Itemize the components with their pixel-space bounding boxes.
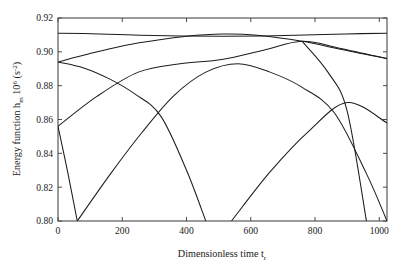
x-tick-label: 600 [244, 225, 259, 236]
curve-line [58, 62, 206, 221]
y-tick-label: 0.84 [36, 148, 53, 159]
x-tick-label: 800 [308, 225, 323, 236]
figure-container: 02004006008001000 0.800.820.840.860.880.… [0, 0, 409, 268]
curve-line [302, 41, 366, 221]
x-axis-title: Dimensionless time tr [178, 248, 267, 262]
y-tick-label: 0.82 [36, 182, 53, 193]
curve-line [58, 126, 77, 221]
y-tick-label: 0.86 [36, 114, 53, 125]
curve-line [58, 41, 387, 126]
line-chart: 02004006008001000 0.800.820.840.860.880.… [0, 0, 409, 268]
y-tick-label: 0.80 [36, 215, 53, 226]
x-tick-label: 1000 [370, 225, 389, 236]
x-tick-label: 0 [56, 225, 61, 236]
x-axis-tick-labels: 02004006008001000 [56, 225, 389, 236]
x-tick-label: 200 [115, 225, 130, 236]
x-axis-ticks [58, 18, 379, 221]
data-curves [58, 33, 387, 221]
y-tick-label: 0.90 [36, 46, 53, 57]
x-tick-label: 400 [179, 225, 194, 236]
y-axis-title: Energy function hm 106 (s-2) [11, 62, 25, 176]
y-tick-label: 0.88 [36, 80, 53, 91]
y-tick-label: 0.92 [36, 12, 53, 23]
y-axis-tick-labels: 0.800.820.840.860.880.900.92 [36, 12, 53, 226]
